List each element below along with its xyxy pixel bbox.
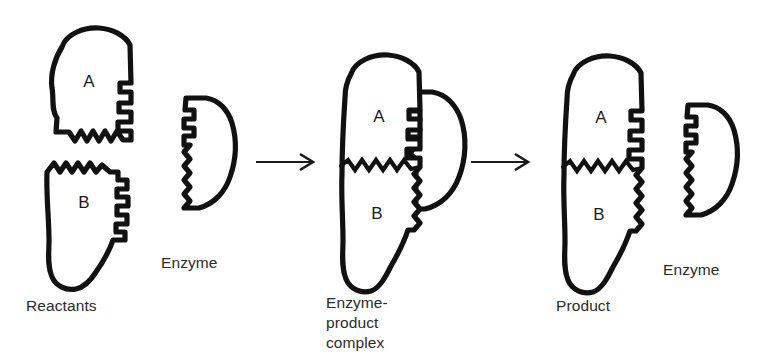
arrow-1-group <box>256 154 313 170</box>
caption-enzyme-right: Enzyme <box>663 260 720 280</box>
caption-enzyme-left: Enzyme <box>161 253 218 273</box>
complex-letter-b: B <box>371 204 382 223</box>
reactant-b-group: B <box>47 163 128 289</box>
complex-substrate-shape <box>342 55 420 292</box>
complex-substrate-group: A B <box>341 55 420 292</box>
reactant-b-shape <box>47 163 128 289</box>
caption-complex-line2: product <box>326 313 378 333</box>
enzyme-right-group <box>686 105 737 215</box>
caption-complex-line3: complex <box>326 333 384 353</box>
product-group: A B <box>563 56 642 293</box>
caption-complex-line1: Enzyme- <box>326 293 388 313</box>
complex-letter-a: A <box>373 107 385 126</box>
product-letter-a: A <box>595 108 607 127</box>
reactant-b-letter: B <box>78 193 89 212</box>
reactant-a-group: A <box>52 28 131 141</box>
enzyme-right-shape <box>686 105 737 215</box>
enzyme-left-shape <box>184 98 235 208</box>
caption-product: Product <box>556 296 610 316</box>
arrow-2-group <box>471 154 528 170</box>
product-shape <box>564 56 642 293</box>
enzyme-left-group <box>184 98 235 208</box>
reactant-a-letter: A <box>83 72 95 91</box>
caption-reactants: Reactants <box>26 296 97 316</box>
enzyme-catalysis-diagram: A B A B <box>0 0 774 363</box>
product-letter-b: B <box>593 205 604 224</box>
